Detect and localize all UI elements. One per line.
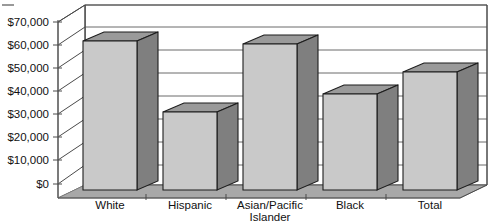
y-tick-label: $50,000 xyxy=(7,62,49,74)
y-tick-label: $30,000 xyxy=(7,108,49,120)
bar-side-face xyxy=(297,35,318,190)
bar-front-face xyxy=(243,44,297,190)
x-axis-labels: White Hispanic Asian/Pacific Islander Bl… xyxy=(95,199,442,223)
bar-white[interactable] xyxy=(83,32,158,190)
bar-side-face xyxy=(377,85,398,190)
y-axis-labels: $70,000 $60,000 $50,000 $40,000 $30,000 … xyxy=(7,16,49,190)
x-tick-label-total: Total xyxy=(418,199,442,211)
bar-front-face xyxy=(163,112,217,190)
y-tick-label: $10,000 xyxy=(7,154,49,166)
y-tick-label: $40,000 xyxy=(7,85,49,97)
y-tick-label: $70,000 xyxy=(7,16,49,28)
y-tick-label: $60,000 xyxy=(7,39,49,51)
bar-front-face xyxy=(323,94,377,190)
bar-front-face xyxy=(403,72,457,190)
x-tick-label-asian-pacific-islander: Asian/Pacific xyxy=(237,199,303,211)
bar-hispanic[interactable] xyxy=(163,103,238,190)
bar-side-face xyxy=(217,103,238,190)
x-tick-label-black: Black xyxy=(336,199,364,211)
bar-asian-pacific-islander[interactable] xyxy=(243,35,318,190)
x-tick-label-asian-pacific-islander-line2: Islander xyxy=(250,211,291,223)
x-tick-label-white: White xyxy=(95,199,124,211)
bar-side-face xyxy=(137,32,158,190)
bar-chart: $70,000 $60,000 $50,000 $40,000 $30,000 … xyxy=(0,0,490,223)
chart-canvas: $70,000 $60,000 $50,000 $40,000 $30,000 … xyxy=(0,0,490,223)
bar-black[interactable] xyxy=(323,85,398,190)
y-tick-label: $0 xyxy=(36,178,49,190)
y-tick-label: $20,000 xyxy=(7,131,49,143)
bar-total[interactable] xyxy=(403,63,478,190)
left-wall xyxy=(58,5,85,198)
x-tick-label-hispanic: Hispanic xyxy=(168,199,212,211)
bar-side-face xyxy=(457,63,478,190)
bar-front-face xyxy=(83,41,137,190)
